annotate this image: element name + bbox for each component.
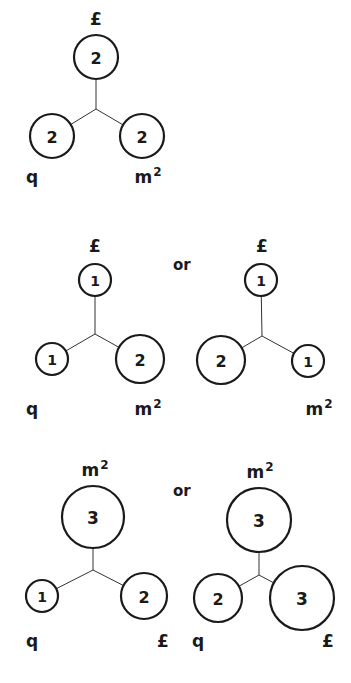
node-value: 1 — [37, 589, 47, 605]
node-label: m2 — [134, 397, 161, 419]
node-left: 2 — [194, 574, 242, 622]
node-right: 2 — [120, 114, 164, 158]
node-right: 1 — [292, 345, 324, 377]
edge-left — [66, 334, 95, 351]
node-top: 1 — [245, 264, 277, 296]
edge-right — [96, 109, 123, 125]
or-separator: or — [173, 256, 191, 274]
node-label: q — [26, 631, 38, 651]
node-right: 3 — [270, 566, 334, 630]
node-value: 2 — [134, 351, 145, 370]
node-label: £ — [256, 236, 268, 256]
tree-d2a: 1£1q2m2 — [26, 236, 164, 419]
edge-right — [262, 336, 294, 353]
node-label: £ — [90, 9, 102, 29]
node-value: 3 — [253, 511, 265, 531]
node-label: £ — [322, 631, 334, 651]
or-separator: or — [173, 482, 191, 500]
edge-left — [71, 109, 96, 124]
node-label: m2 — [246, 460, 273, 482]
edge-left — [239, 575, 259, 586]
node-value: 2 — [212, 590, 223, 609]
tree-diagrams: 2£2q2m21£1q2m21£21m23m21q2£3m22q3£oror — [0, 0, 351, 683]
node-left: 1 — [36, 343, 68, 375]
node-label: m2 — [134, 165, 161, 187]
node-value: 1 — [303, 354, 313, 370]
node-value: 2 — [136, 128, 147, 147]
node-value: 3 — [296, 589, 308, 609]
node-right: 2 — [116, 335, 164, 383]
tree-d3b: 3m22q3£ — [192, 460, 334, 651]
node-top: 3 — [227, 488, 291, 552]
tree-d1: 2£2q2m2 — [26, 9, 164, 187]
node-label: £ — [157, 631, 169, 651]
node-label: q — [26, 167, 38, 187]
node-top: 2 — [74, 35, 118, 79]
node-top: 1 — [79, 264, 111, 296]
edge-right — [95, 334, 119, 347]
node-label: £ — [89, 236, 101, 256]
node-label: m2 — [305, 397, 332, 419]
node-value: 1 — [256, 273, 266, 289]
node-value: 2 — [215, 352, 226, 371]
node-label: q — [192, 631, 204, 651]
node-label: q — [26, 399, 38, 419]
node-right: 2 — [121, 573, 167, 619]
edge-left — [56, 570, 93, 589]
tree-d3a: 3m21q2£ — [26, 458, 169, 651]
node-top: 3 — [62, 486, 124, 548]
node-value: 1 — [90, 273, 100, 289]
edge-right — [93, 570, 124, 586]
node-left: 2 — [30, 114, 74, 158]
edge-right — [259, 575, 274, 583]
tree-d2b: 1£21m2 — [197, 236, 333, 419]
node-left: 1 — [26, 580, 58, 612]
node-label: m2 — [81, 458, 108, 480]
node-value: 1 — [47, 352, 57, 368]
edge-top — [261, 296, 262, 336]
node-value: 2 — [46, 128, 57, 147]
node-left: 2 — [197, 336, 245, 384]
node-value: 2 — [90, 49, 101, 68]
node-value: 3 — [87, 508, 99, 528]
edge-left — [242, 336, 262, 348]
node-value: 2 — [138, 588, 149, 607]
